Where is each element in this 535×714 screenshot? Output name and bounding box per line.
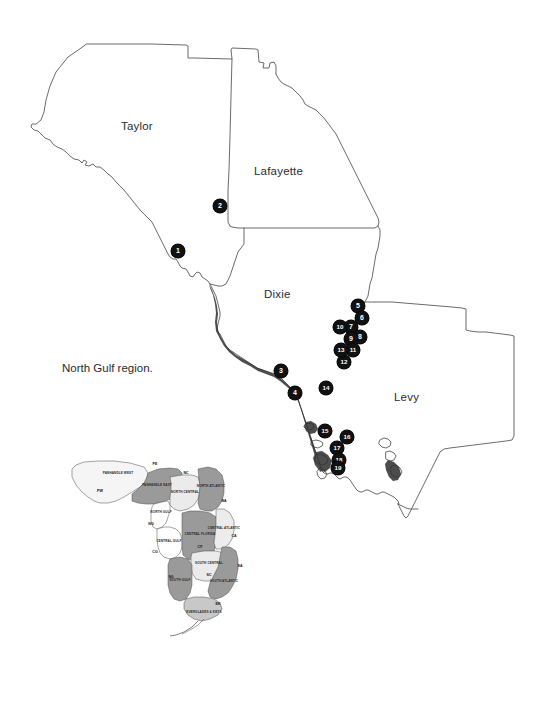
inset-region-name-south-gulf: SOUTH GULF — [169, 579, 190, 583]
site-marker-4[interactable]: 4 — [288, 386, 302, 400]
inset-region-name-central-gulf: CENTRAL GULF — [156, 540, 181, 544]
site-marker-14[interactable]: 14 — [319, 381, 333, 395]
inset-region-code-ek: EK — [216, 602, 221, 606]
inset-region-code-cg: CG — [152, 550, 157, 554]
county-label-dixie: Dixie — [264, 288, 291, 300]
site-marker-16[interactable]: 16 — [340, 430, 354, 444]
site-marker-13[interactable]: 13 — [334, 343, 348, 357]
inset-region-code-cf: CF — [198, 545, 203, 549]
florida-regions-inset-map: PANHANDLE WEST PANHANDLE EAST NORTH GULF… — [58, 447, 248, 642]
inset-region-code-pe: PE — [153, 462, 158, 466]
site-marker-1[interactable]: 1 — [171, 244, 185, 258]
inset-region-name-everglades-keys: EVERGLADES & KEYS — [186, 611, 221, 615]
site-marker-15[interactable]: 15 — [318, 424, 332, 438]
site-marker-2[interactable]: 2 — [213, 199, 227, 213]
inset-region-code-sg: SG — [168, 575, 173, 579]
site-marker-12[interactable]: 12 — [337, 355, 351, 369]
inset-region-code-na: NA — [221, 499, 226, 503]
site-marker-11[interactable]: 11 — [346, 343, 360, 357]
county-label-lafayette: Lafayette — [254, 165, 303, 177]
inset-region-name-central-atlantic: CENTRAL ATLANTIC — [208, 527, 240, 531]
inset-region-code-ng: NG — [148, 522, 153, 526]
inset-region-code-sc: SC — [207, 573, 212, 577]
site-marker-3[interactable]: 3 — [274, 364, 288, 378]
site-marker-10[interactable]: 10 — [333, 320, 347, 334]
inset-region-code-sa: SA — [238, 564, 243, 568]
inset-region-name-central-florida: CENTRAL FLORIDA — [185, 533, 216, 537]
county-label-taylor: Taylor — [121, 120, 153, 132]
inset-region-code-ca: CA — [231, 534, 236, 538]
county-label-levy: Levy — [394, 391, 419, 403]
figure-caption: North Gulf region. — [62, 362, 153, 374]
inset-region-code-pw: PW — [97, 489, 103, 493]
inset-region-code-nc: NC — [183, 471, 188, 475]
inset-region-name-panhandle-west: PANHANDLE WEST — [103, 472, 133, 476]
inset-region-name-north-gulf: NORTH GULF — [150, 511, 171, 515]
inset-region-name-panhandle-east: PANHANDLE EAST — [142, 484, 172, 488]
inset-region-name-south-central: SOUTH CENTRAL — [195, 562, 223, 566]
north-gulf-region-map-figure: Taylor Lafayette Dixie Levy North Gulf r… — [0, 0, 535, 714]
inset-region-name-north-atlantic: NORTH ATLANTIC — [197, 485, 225, 489]
site-marker-19[interactable]: 19 — [331, 461, 345, 475]
inset-region-name-south-atlantic: SOUTH ATLANTIC — [210, 580, 238, 584]
inset-region-name-north-central: NORTH CENTRAL — [171, 491, 199, 495]
